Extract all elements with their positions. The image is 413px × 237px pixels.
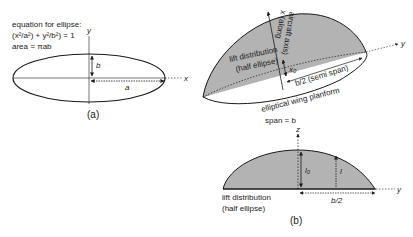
y-axis-b-label: y	[396, 185, 402, 194]
y-axis-3d-label: y	[400, 39, 406, 48]
caption-a: (a)	[87, 109, 99, 120]
lift-label-b-line1: lift distribution	[222, 193, 271, 202]
x-axis-label: x	[183, 74, 189, 83]
z-axis-b-label: z	[295, 125, 300, 134]
figure-b: y z l₀ l b/2 lift distribution (half ell…	[222, 125, 402, 226]
l0-label: l₀	[305, 166, 311, 175]
elliptical-lift-diagram: equation for ellipse: (x²/a²) + y²/b²) =…	[0, 0, 413, 237]
half-span-label: b/2	[331, 196, 343, 205]
span-label: span = b	[265, 116, 296, 125]
l-label: l	[340, 167, 342, 176]
figure-3d: y x (along aircraft axis) x₀ b/2 (semi s…	[203, 10, 406, 125]
y-axis-label: y	[86, 26, 92, 35]
b-label: b	[96, 61, 101, 70]
equation-title: equation for ellipse:	[12, 20, 81, 29]
a-label: a	[125, 83, 130, 92]
figure-a: equation for ellipse: (x²/a²) + y²/b²) =…	[12, 20, 189, 120]
ellipse-equation: (x²/a²) + y²/b²) = 1	[12, 31, 75, 40]
lift-half-ellipse-2d	[223, 150, 375, 189]
ellipse-area: area = πab	[12, 42, 52, 51]
lift-label-b-line2: (half ellipse)	[222, 204, 265, 213]
y-axis-3d	[366, 44, 398, 52]
caption-b: (b)	[290, 215, 302, 226]
x0-label: x₀	[288, 65, 297, 74]
